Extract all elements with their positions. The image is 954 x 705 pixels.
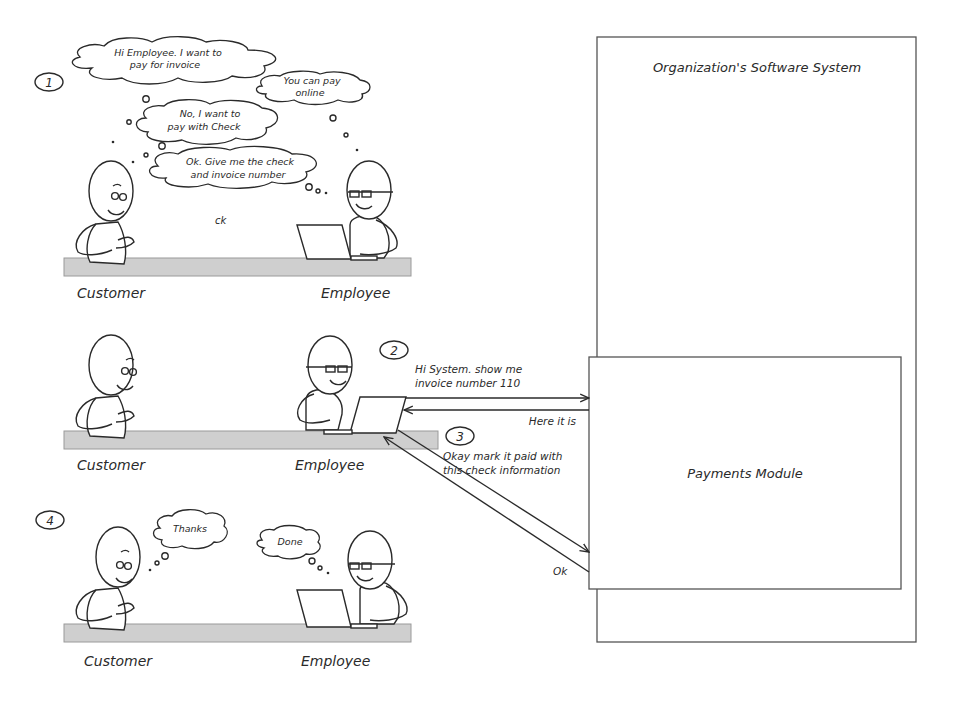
svg-text:invoice number 110: invoice number 110: [415, 377, 520, 389]
scene-4: 4 Thanks Done: [36, 510, 411, 669]
customer-label: Customer: [77, 285, 146, 301]
customer-label: Customer: [84, 653, 153, 669]
svg-text:4: 4: [46, 514, 54, 528]
payments-module-label: Payments Module: [687, 466, 803, 481]
employee-figure: [348, 531, 407, 624]
svg-text:and invoice number: and invoice number: [191, 169, 287, 180]
svg-text:2: 2: [390, 344, 398, 358]
speech-bubble-customer-1: Hi Employee. I want to pay for invoice: [72, 37, 275, 84]
svg-text:Ok: Ok: [553, 565, 568, 577]
employee-label: Employee: [321, 285, 390, 301]
employee-figure: [347, 161, 397, 258]
speech-bubble-customer-thanks: Thanks: [154, 510, 228, 549]
employee-label: Employee: [295, 457, 364, 473]
speech-bubble-customer-2: No, I want to pay with Check: [136, 100, 277, 145]
stray-text: ck: [215, 215, 227, 226]
speech-bubble-employee-1: You can pay online: [256, 71, 370, 104]
diagram-canvas: Organization's Software System Payments …: [0, 0, 954, 705]
svg-text:Ok. Give me the check: Ok. Give me the check: [186, 156, 295, 167]
svg-text:Okay mark it paid with: Okay mark it paid with: [443, 450, 562, 462]
svg-text:Hi System. show me: Hi System. show me: [415, 363, 522, 375]
message-here-it-is: Here it is: [404, 410, 589, 427]
svg-text:online: online: [296, 87, 325, 98]
arrow-to-system: [398, 430, 589, 552]
customer-figure: [76, 161, 134, 264]
svg-text:No, I want to: No, I want to: [180, 108, 241, 119]
svg-text:3: 3: [456, 430, 464, 444]
customer-figure: [76, 335, 136, 438]
speech-bubble-employee-2: Ok. Give me the check and invoice number: [150, 147, 317, 189]
svg-text:pay for invoice: pay for invoice: [129, 59, 201, 70]
customer-figure: [76, 527, 140, 630]
employee-figure: [298, 336, 352, 430]
message-request-invoice: Hi System. show me invoice number 110: [406, 363, 589, 398]
svg-text:Here it is: Here it is: [529, 415, 577, 427]
svg-text:1: 1: [45, 76, 53, 90]
scene-1: 1 Hi Employee. I want to pay for invoice…: [35, 37, 411, 301]
payments-module-box: Payments Module: [589, 357, 901, 589]
software-system-title: Organization's Software System: [653, 60, 861, 75]
svg-text:Done: Done: [278, 536, 303, 547]
svg-text:You can pay: You can pay: [283, 75, 341, 86]
employee-label: Employee: [301, 653, 370, 669]
svg-text:Thanks: Thanks: [173, 523, 207, 534]
svg-text:Hi Employee. I want to: Hi Employee. I want to: [114, 47, 222, 58]
svg-text:pay with Check: pay with Check: [167, 121, 241, 132]
scene-2: 2 Customer Employee: [64, 335, 438, 473]
speech-bubble-employee-done: Done: [257, 526, 320, 559]
customer-label: Customer: [77, 457, 146, 473]
